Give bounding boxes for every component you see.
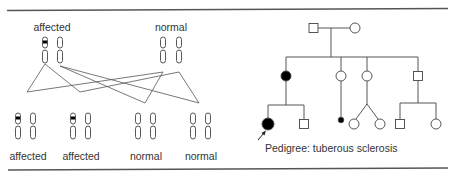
chromosome bbox=[31, 113, 36, 139]
pedigree-proband-affected bbox=[262, 118, 274, 130]
offspring-2-chromosomes bbox=[71, 113, 91, 139]
pedigree-affected-small bbox=[338, 117, 344, 123]
chromosome bbox=[177, 37, 182, 63]
top-rule bbox=[7, 9, 448, 11]
offspring-label: normal bbox=[130, 150, 162, 162]
pedigree-female-unaffected bbox=[362, 71, 372, 81]
pedigree-male-unaffected bbox=[396, 120, 405, 129]
pedigree-female-unaffected bbox=[350, 23, 360, 33]
chromosome bbox=[86, 113, 91, 139]
pedigree-male-unaffected bbox=[309, 24, 318, 33]
chromosome-mutant bbox=[43, 37, 48, 63]
chromosome-mutant bbox=[16, 113, 21, 139]
offspring-label: normal bbox=[185, 150, 217, 162]
offspring-3-chromosomes bbox=[136, 113, 156, 139]
figure-canvas: affected normal bbox=[0, 0, 458, 175]
pedigree-female-affected bbox=[281, 71, 291, 81]
offspring-label: affected bbox=[62, 150, 99, 162]
segregation-lines bbox=[27, 64, 199, 103]
pedigree-twin-female bbox=[375, 119, 385, 129]
chromosome-diagram: affected normal bbox=[9, 21, 217, 162]
bottom-rule bbox=[8, 168, 448, 170]
pedigree-male-unaffected bbox=[300, 120, 309, 129]
pedigree-male-unaffected bbox=[414, 72, 423, 81]
parent-label-affected: affected bbox=[33, 21, 70, 33]
chromosome bbox=[161, 37, 166, 63]
parent-normal-chromosomes bbox=[161, 37, 182, 63]
offspring-4-chromosomes bbox=[191, 113, 211, 139]
chromosome bbox=[136, 113, 141, 139]
pedigree-female-unaffected bbox=[336, 71, 346, 81]
chromosome bbox=[191, 113, 196, 139]
parent-affected-chromosomes bbox=[43, 37, 63, 63]
pedigree-caption: Pedigree: tuberous sclerosis bbox=[265, 142, 398, 154]
offspring-label: affected bbox=[9, 150, 46, 162]
chromosome bbox=[58, 37, 63, 63]
chromosome bbox=[206, 113, 211, 139]
offspring-1-chromosomes bbox=[16, 113, 36, 139]
proband-arrow-icon bbox=[258, 131, 266, 141]
chromosome-mutant bbox=[71, 113, 76, 139]
chromosome bbox=[151, 113, 156, 139]
pedigree-twin-female bbox=[349, 119, 359, 129]
pedigree bbox=[258, 23, 441, 140]
pedigree-female-unaffected bbox=[431, 119, 441, 129]
parent-label-normal: normal bbox=[155, 21, 187, 33]
